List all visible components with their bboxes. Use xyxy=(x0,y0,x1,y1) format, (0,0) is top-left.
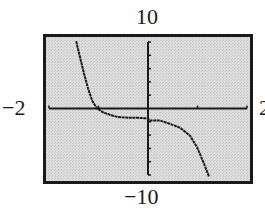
x-min-label: −2 xyxy=(2,97,25,119)
y-max-label: 10 xyxy=(136,6,158,28)
plot-area xyxy=(43,34,253,184)
x-max-label: 2 xyxy=(259,97,265,119)
graph-screen xyxy=(43,34,253,184)
y-min-label: −10 xyxy=(124,186,158,208)
